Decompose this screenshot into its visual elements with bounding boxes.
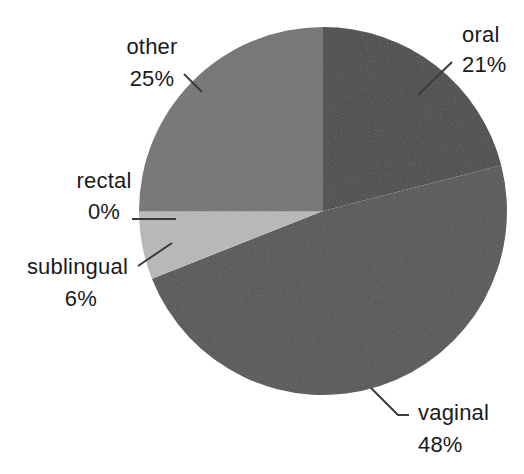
pie-label-percent-rectal: 0% — [88, 199, 120, 224]
pie-label-percent-oral: 21% — [462, 52, 507, 77]
pie-label-name-rectal: rectal — [77, 168, 132, 193]
pie-label-percent-other: 25% — [130, 66, 175, 91]
pie-label-name-sublingual: sublingual — [27, 254, 128, 279]
pie-label-name-oral: oral — [462, 22, 500, 47]
pie-label-percent-vaginal: 48% — [418, 432, 463, 457]
pie-chart-canvas: oral21%vaginal48%sublingual6%rectal0%oth… — [0, 0, 524, 474]
pie-chart-figure: oral21%vaginal48%sublingual6%rectal0%oth… — [0, 0, 524, 474]
pie-slices-group — [139, 27, 507, 395]
pie-label-percent-sublingual: 6% — [65, 286, 97, 311]
pie-label-name-other: other — [126, 34, 177, 59]
pie-label-name-vaginal: vaginal — [418, 400, 489, 425]
